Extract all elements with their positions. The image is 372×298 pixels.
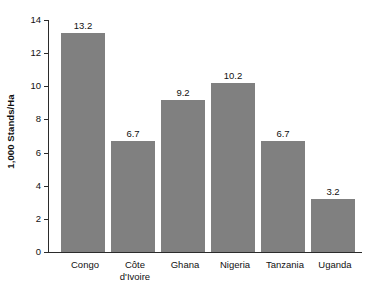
y-tick-label: 14: [30, 13, 41, 26]
bar-group-congo[interactable]: 13.2: [61, 20, 105, 252]
bar-congo[interactable]: [61, 33, 105, 252]
bar-ghana[interactable]: [161, 100, 205, 253]
bar-value-label: 6.7: [111, 128, 155, 139]
y-tick-8: 8: [0, 119, 48, 120]
bar-chart: 1,000 Stands/Ha 0 2 4 6 8 10 12 14 13.2: [0, 0, 372, 298]
y-tick-mark: [44, 252, 48, 253]
x-label-line1: Côte: [125, 259, 145, 270]
bar-cote-divoire[interactable]: [111, 141, 155, 252]
y-tick-4: 4: [0, 186, 48, 187]
y-tick-12: 12: [0, 53, 48, 54]
y-tick-0: 0: [0, 252, 48, 253]
y-tick-label: 4: [36, 179, 41, 192]
x-label-line1: Congo: [71, 259, 99, 270]
y-tick-14: 14: [0, 20, 48, 21]
x-label-line1: Tanzania: [266, 259, 304, 270]
bar-value-label: 13.2: [61, 20, 105, 31]
y-tick-label: 2: [36, 212, 41, 225]
bar-group-uganda[interactable]: 3.2: [311, 20, 355, 252]
bar-value-label: 9.2: [161, 87, 205, 98]
y-tick-label: 10: [30, 79, 41, 92]
y-tick-label: 12: [30, 46, 41, 59]
x-label-line2: d'Ivoire: [101, 271, 169, 283]
bar-tanzania[interactable]: [261, 141, 305, 252]
y-tick-6: 6: [0, 153, 48, 154]
bar-value-label: 6.7: [261, 128, 305, 139]
x-label-line1: Ghana: [171, 259, 200, 270]
bar-nigeria[interactable]: [211, 83, 255, 252]
y-tick-label: 8: [36, 112, 41, 125]
bar-group-cote-divoire[interactable]: 6.7: [111, 20, 155, 252]
x-label-uganda: Uganda: [301, 259, 369, 271]
y-axis-title: 1,000 Stands/Ha: [0, 0, 20, 262]
bar-group-tanzania[interactable]: 6.7: [261, 20, 305, 252]
x-label-line1: Uganda: [318, 259, 351, 270]
y-tick-label: 0: [36, 245, 41, 258]
x-label-line1: Nigeria: [220, 259, 250, 270]
y-tick-label: 6: [36, 146, 41, 159]
bar-uganda[interactable]: [311, 199, 355, 252]
bar-group-ghana[interactable]: 9.2: [161, 20, 205, 252]
y-tick-10: 10: [0, 86, 48, 87]
y-axis-title-text: 1,000 Stands/Ha: [5, 94, 16, 168]
y-tick-2: 2: [0, 219, 48, 220]
bar-value-label: 10.2: [211, 70, 255, 81]
x-axis-line: [48, 252, 362, 253]
bar-group-nigeria[interactable]: 10.2: [211, 20, 255, 252]
plot-area: 13.2 6.7 9.2 10.2 6.7 3.2: [48, 20, 362, 252]
bar-value-label: 3.2: [311, 186, 355, 197]
